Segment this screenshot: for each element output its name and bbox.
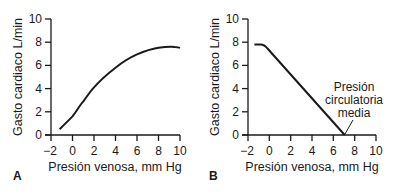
- y-tick-label: 0: [232, 128, 239, 142]
- x-tick-label: 10: [173, 144, 187, 158]
- panel-letter-a: A: [13, 169, 22, 183]
- y-tick-label: 4: [232, 82, 239, 96]
- x-tick-label: 8: [155, 144, 162, 158]
- x-tick-label: −2: [43, 144, 57, 158]
- x-tick-label: 2: [287, 144, 294, 158]
- y-tick-label: 2: [232, 105, 239, 119]
- mean-circulatory-pressure-annotation: Presión circulatoria media: [325, 80, 383, 120]
- cardiac-output-curve: [60, 47, 180, 129]
- x-tick-label: −2: [240, 144, 254, 158]
- panel-b: 10 8 6 4 2 0 −2 0 2 4 6 8 10 Presión ven…: [208, 12, 383, 183]
- annotation-leader-line: [345, 120, 353, 134]
- panel-letter-b: B: [209, 169, 218, 183]
- y-tick-label: 8: [232, 35, 239, 49]
- x-tick-labels: −2 0 2 4 6 8 10: [43, 144, 187, 158]
- y-axis-title: Gasto cardiaco L/min: [208, 18, 222, 136]
- x-tick-label: 10: [369, 144, 383, 158]
- y-tick-label: 6: [35, 58, 42, 72]
- x-tick-label: 4: [112, 144, 119, 158]
- x-ticks: [51, 135, 180, 141]
- y-tick-label: 10: [29, 12, 43, 26]
- x-tick-label: 4: [309, 144, 316, 158]
- y-tick-label: 10: [226, 12, 240, 26]
- y-tick-label: 0: [35, 128, 42, 142]
- x-tick-label: 6: [330, 144, 337, 158]
- x-axis-title: Presión venosa, mm Hg: [48, 160, 181, 174]
- x-axis-title: Presión venosa, mm Hg: [245, 160, 378, 174]
- x-tick-label: 0: [266, 144, 273, 158]
- y-ticks: [242, 19, 248, 135]
- y-tick-label: 4: [35, 82, 42, 96]
- y-ticks: [45, 19, 51, 135]
- x-tick-label: 6: [134, 144, 141, 158]
- panel-a: 10 8 6 4 2 0 −2 0 2 4 6 8 10 Presión ven…: [11, 12, 187, 183]
- svg-text:circulatoria: circulatoria: [325, 93, 383, 107]
- y-tick-label: 6: [232, 58, 239, 72]
- venous-return-curve: [254, 45, 344, 136]
- y-tick-labels: 10 8 6 4 2 0: [29, 12, 43, 142]
- svg-text:media: media: [338, 106, 371, 120]
- x-tick-labels: −2 0 2 4 6 8 10: [240, 144, 383, 158]
- y-axis-title: Gasto cardiaco L/min: [11, 18, 25, 136]
- y-tick-labels: 10 8 6 4 2 0: [226, 12, 240, 142]
- x-ticks: [248, 135, 376, 141]
- y-tick-label: 8: [35, 35, 42, 49]
- y-tick-label: 2: [35, 105, 42, 119]
- svg-text:Presión: Presión: [334, 80, 375, 94]
- figure: 10 8 6 4 2 0 −2 0 2 4 6 8 10 Presión ven…: [0, 0, 403, 195]
- x-tick-label: 2: [91, 144, 98, 158]
- x-tick-label: 0: [69, 144, 76, 158]
- x-tick-label: 8: [351, 144, 358, 158]
